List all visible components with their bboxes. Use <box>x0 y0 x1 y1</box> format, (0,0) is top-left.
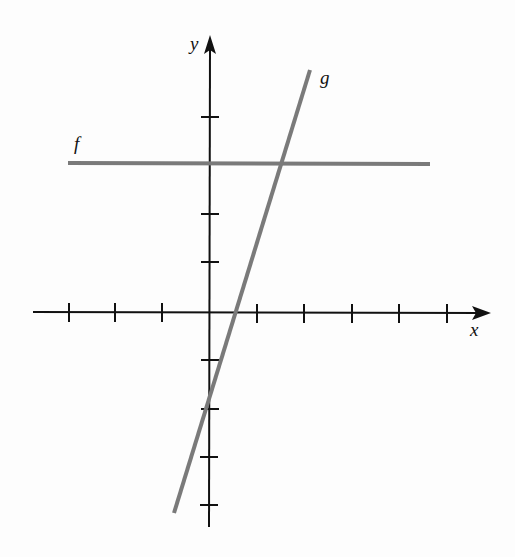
y-axis-label: y <box>188 33 199 54</box>
x-axis-label: x <box>469 319 479 340</box>
coordinate-plane: y x f g <box>0 0 515 557</box>
line-f <box>68 163 430 164</box>
f-label: f <box>74 133 82 154</box>
line-g <box>174 70 310 513</box>
g-label: g <box>320 67 330 88</box>
